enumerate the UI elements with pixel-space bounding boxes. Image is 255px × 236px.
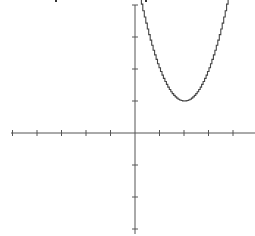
cropped-caption-fragments: [55, 0, 147, 2]
parabola-curve: [140, 0, 228, 101]
coordinate-plane: [0, 0, 255, 236]
